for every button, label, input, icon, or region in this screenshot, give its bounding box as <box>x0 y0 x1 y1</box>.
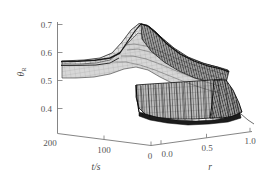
surface-lower-right-wedge <box>210 80 242 118</box>
vertical-axis-subscript: R <box>20 67 27 72</box>
htick-10: 1.0 <box>244 136 256 146</box>
horizontal-axis-ticks <box>161 128 250 144</box>
htick-05: 0.5 <box>201 143 213 153</box>
figure-3d-surface-plot: 0.7 0.6 0.5 0.4 200 100 0 0.0 0.5 1.0 θR… <box>0 0 273 180</box>
htick-00: 0.0 <box>161 149 173 159</box>
dtick-200: 200 <box>43 138 57 148</box>
vertical-axis-label: θR <box>16 67 27 77</box>
horizontal-axis-label: r <box>208 162 212 172</box>
dtick-0: 0 <box>148 151 153 161</box>
vtick-0: 0.7 <box>41 20 53 30</box>
vtick-2: 0.5 <box>41 76 53 86</box>
plot-canvas: 0.7 0.6 0.5 0.4 200 100 0 0.0 0.5 1.0 θR… <box>0 0 273 180</box>
depth-axis-label: t/s <box>92 162 101 172</box>
surface-mesh <box>61 24 254 126</box>
vtick-3: 0.4 <box>41 104 53 114</box>
dtick-100: 100 <box>97 145 111 155</box>
surface-trailing-skirt <box>241 114 254 124</box>
vtick-1: 0.6 <box>41 48 53 58</box>
